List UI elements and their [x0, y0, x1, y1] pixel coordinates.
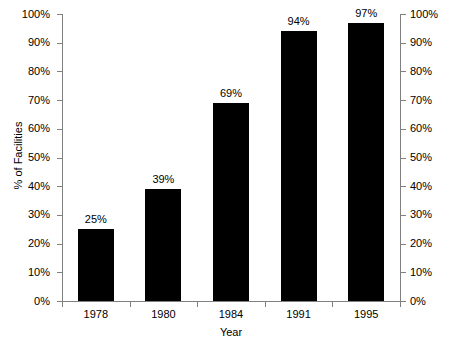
y-axis-left-tick-label: 10% — [28, 267, 50, 278]
y-axis-left-tick — [57, 244, 62, 245]
y-axis-left-tick — [57, 43, 62, 44]
x-axis-tick — [197, 301, 198, 307]
bar-chart: 0%10%20%30%40%50%60%70%80%90%100% 0%10%2… — [0, 0, 459, 346]
x-axis-category-label: 1991 — [269, 309, 329, 320]
y-axis-right-tick-label: 10% — [410, 267, 432, 278]
y-axis-right-tick-label: 40% — [410, 181, 432, 192]
y-axis-right-tick — [401, 158, 406, 159]
y-axis-right-tick-label: 60% — [410, 123, 432, 134]
y-axis-left-tick-label: 20% — [28, 238, 50, 249]
y-axis-left-tick — [57, 272, 62, 273]
y-axis-right-tick — [401, 43, 406, 44]
x-axis-category-label: 1980 — [133, 309, 193, 320]
y-axis-left-tick — [57, 186, 62, 187]
y-axis-left-tick — [57, 71, 62, 72]
y-axis-left-tick-label: 90% — [28, 37, 50, 48]
y-axis-right-tick — [401, 129, 406, 130]
bar — [281, 31, 317, 301]
bar-value-label: 39% — [133, 174, 193, 185]
y-axis-left-tick — [57, 129, 62, 130]
y-axis-left-tick — [57, 158, 62, 159]
bar — [145, 189, 181, 301]
bar — [213, 103, 249, 301]
y-axis-right-tick-label: 100% — [410, 9, 438, 20]
y-axis-right-tick-label: 50% — [410, 152, 432, 163]
y-axis-left-tick-label: 40% — [28, 181, 50, 192]
y-axis-left-tick — [57, 14, 62, 15]
x-axis-category-label: 1978 — [66, 309, 126, 320]
y-axis-right-tick-label: 70% — [410, 95, 432, 106]
y-axis-right-tick-label: 90% — [410, 37, 432, 48]
x-axis-tick — [265, 301, 266, 307]
y-axis-right-tick — [401, 215, 406, 216]
y-axis-right-tick — [401, 272, 406, 273]
bar — [78, 229, 114, 301]
y-axis-title: % of Facilities — [13, 96, 24, 216]
y-axis-right-tick — [401, 301, 406, 302]
y-axis-left-tick-label: 0% — [34, 296, 50, 307]
y-axis-right-tick — [401, 186, 406, 187]
x-axis-tick — [332, 301, 333, 307]
y-axis-right-tick-label: 0% — [410, 296, 426, 307]
y-axis-left-tick-label: 30% — [28, 209, 50, 220]
y-axis-left-line — [62, 14, 63, 302]
y-axis-right-tick — [401, 71, 406, 72]
y-axis-right-tick — [401, 14, 406, 15]
bar-value-label: 94% — [269, 16, 329, 27]
y-axis-right-tick — [401, 244, 406, 245]
y-axis-right-tick-label: 80% — [410, 66, 432, 77]
y-axis-left-tick-label: 70% — [28, 95, 50, 106]
x-axis-tick — [62, 301, 63, 307]
x-axis-category-label: 1995 — [336, 309, 396, 320]
x-axis-tick — [400, 301, 401, 307]
y-axis-left-tick — [57, 100, 62, 101]
bar-value-label: 69% — [201, 88, 261, 99]
y-axis-right-tick-label: 30% — [410, 209, 432, 220]
y-axis-left-tick-label: 60% — [28, 123, 50, 134]
bar-value-label: 25% — [66, 214, 126, 225]
y-axis-left-tick-label: 50% — [28, 152, 50, 163]
x-axis-tick — [130, 301, 131, 307]
bar — [348, 23, 384, 301]
x-axis-category-label: 1984 — [201, 309, 261, 320]
y-axis-right-tick — [401, 100, 406, 101]
x-axis-line — [62, 301, 401, 302]
y-axis-left-tick — [57, 215, 62, 216]
y-axis-left-tick-label: 100% — [22, 9, 50, 20]
y-axis-right-tick-label: 20% — [410, 238, 432, 249]
x-axis-title: Year — [62, 327, 400, 338]
bar-value-label: 97% — [336, 8, 396, 19]
y-axis-left-tick-label: 80% — [28, 66, 50, 77]
